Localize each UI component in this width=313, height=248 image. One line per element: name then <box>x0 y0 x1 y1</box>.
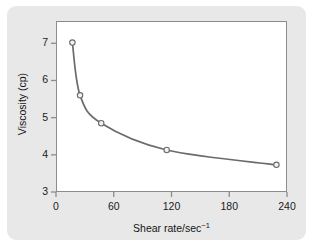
x-tick-label: 240 <box>267 200 307 212</box>
data-point-marker <box>164 147 169 152</box>
x-tick-label: 60 <box>94 200 134 212</box>
y-axis-ticks <box>51 43 56 192</box>
x-axis-title-exponent: −1 <box>201 221 210 230</box>
data-point-marker <box>99 121 104 126</box>
y-tick-label: 4 <box>8 148 48 160</box>
data-point-marker <box>274 162 279 167</box>
y-tick-label: 6 <box>8 73 48 85</box>
data-point-marker <box>77 93 82 98</box>
x-axis-title: Shear rate/sec−1 <box>56 222 287 234</box>
x-axis-ticks <box>56 192 287 197</box>
chart-figure: 060120180240 34567 Shear rate/sec−1 Visc… <box>0 0 313 248</box>
y-axis-title: Viscosity (cp) <box>16 44 28 164</box>
x-tick-label: 180 <box>209 200 249 212</box>
data-series-line <box>72 43 276 165</box>
x-tick-label: 120 <box>152 200 192 212</box>
data-point-marker <box>70 40 75 45</box>
x-tick-label: 0 <box>36 200 76 212</box>
y-tick-label: 5 <box>8 111 48 123</box>
y-tick-label: 7 <box>8 36 48 48</box>
y-tick-label: 3 <box>8 185 48 197</box>
data-point-markers <box>70 40 279 168</box>
